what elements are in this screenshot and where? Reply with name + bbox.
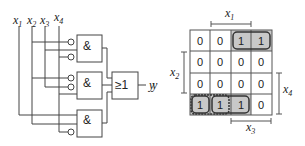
inverter-bubble-icon	[68, 39, 74, 45]
svg-text:x2: x2	[26, 13, 36, 29]
kmap-cell: 0	[258, 99, 264, 111]
kmap-cell: 0	[238, 78, 244, 90]
inverter-bubble-icon	[68, 75, 74, 81]
kmap-cell: 0	[258, 56, 264, 68]
kmap-label-bottom: x3	[245, 120, 255, 136]
kmap-label-top: x1	[224, 6, 234, 22]
kmap-cell: 0	[197, 78, 203, 90]
and-gate-1: &	[68, 35, 102, 62]
kmap-label-right: x4	[282, 82, 292, 98]
and-symbol: &	[83, 76, 91, 90]
kmap-cell: 0	[217, 78, 223, 90]
kmap-cell: 1	[238, 35, 244, 47]
svg-text:x4: x4	[53, 10, 63, 26]
kmap-cell: 1	[217, 99, 223, 111]
inverter-bubble-icon	[68, 84, 74, 90]
svg-text:x3: x3	[39, 13, 49, 29]
kmap-cell: 0	[197, 56, 203, 68]
kmap-cell: 0	[217, 56, 223, 68]
kmap-cell: 1	[258, 35, 264, 47]
kmap-cell: 0	[217, 35, 223, 47]
inverter-bubble-icon	[68, 129, 74, 135]
kmap-cell: 0	[258, 78, 264, 90]
and-symbol: &	[83, 39, 91, 53]
and-gate-2: &	[68, 72, 102, 99]
karnaugh-map: y 0 0 1 1 0 0 0	[151, 6, 292, 136]
kmap-output-label: y	[151, 78, 158, 92]
kmap-cell: 1	[197, 99, 203, 111]
svg-text:x1: x1	[12, 13, 22, 29]
kmap-cell: 1	[238, 99, 244, 111]
or-symbol: ≥1	[115, 78, 129, 92]
input-labels: x1 x2 x3 x4	[12, 10, 63, 29]
or-gate: ≥1	[112, 72, 138, 99]
kmap-cell: 0	[197, 35, 203, 47]
kmap-cell: 0	[238, 56, 244, 68]
and-symbol: &	[83, 113, 91, 127]
diagram-canvas: & & & ≥1 y x1 x2 x3 x4 y	[0, 0, 305, 146]
kmap-label-left: x2	[169, 65, 179, 81]
inverter-bubble-icon	[68, 54, 74, 60]
